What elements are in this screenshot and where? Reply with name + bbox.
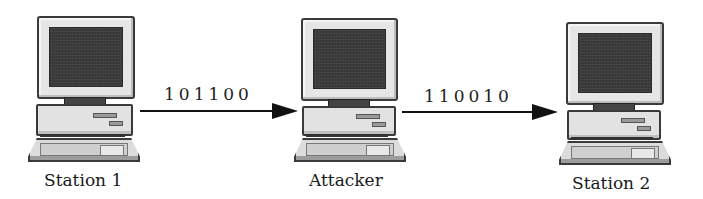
keyboard xyxy=(28,138,140,162)
keyboard xyxy=(559,141,671,165)
edge-label: 101100 xyxy=(164,84,253,104)
system-unit xyxy=(36,104,133,136)
system-unit xyxy=(302,106,396,136)
desktop-computer-icon xyxy=(555,0,675,170)
node-attacker: Attacker xyxy=(290,0,410,199)
screen xyxy=(49,27,123,87)
monitor xyxy=(301,18,398,101)
drive-slot xyxy=(372,122,386,127)
feet xyxy=(40,134,125,137)
screen xyxy=(313,29,386,89)
drive-slot xyxy=(356,114,380,119)
desktop-computer-icon xyxy=(24,0,144,170)
feet xyxy=(571,137,653,140)
arrow-line xyxy=(402,111,536,113)
drive-slot xyxy=(109,121,123,126)
edge-label: 110010 xyxy=(424,86,513,106)
feet xyxy=(306,134,388,137)
keyboard xyxy=(294,138,406,162)
screen xyxy=(578,33,652,93)
node-station-2: Station 2 xyxy=(555,0,675,199)
monitor xyxy=(37,16,135,99)
drive-slot xyxy=(621,118,645,123)
monitor xyxy=(566,22,664,105)
arrow-line xyxy=(140,110,275,112)
drive-slot xyxy=(93,113,117,118)
node-label: Station 1 xyxy=(44,170,122,190)
node-label: Attacker xyxy=(309,170,383,190)
drive-slot xyxy=(637,126,651,131)
desktop-computer-icon xyxy=(290,0,410,170)
node-station-1: Station 1 xyxy=(24,0,144,199)
node-label: Station 2 xyxy=(572,173,650,193)
system-unit xyxy=(567,110,661,140)
